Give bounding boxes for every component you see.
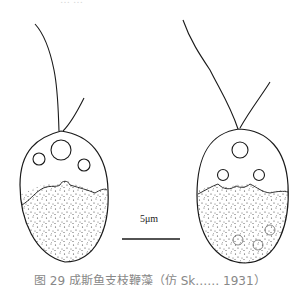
right-vacuole-left — [218, 170, 229, 181]
left-short-flagellum — [63, 98, 84, 131]
right-vacuole-right — [254, 170, 265, 181]
left-cell — [10, 24, 115, 270]
scale-bar-label: 5μm — [140, 213, 158, 224]
figure-caption: 图 29 成斯鱼支枝鞭藻（仿 Sk…… 1931） — [34, 271, 284, 285]
left-long-flagellum — [35, 24, 59, 131]
left-granular-region — [10, 179, 115, 270]
micrograph-illustration — [0, 0, 305, 285]
right-granular-region — [190, 182, 295, 270]
left-vacuole-large — [51, 140, 71, 160]
right-long-flagellum — [183, 20, 238, 129]
left-vacuole-right — [78, 159, 90, 171]
right-cell — [183, 20, 295, 270]
right-vacuole-top — [232, 142, 248, 158]
right-short-flagellum — [240, 82, 270, 128]
left-vacuole-left — [33, 153, 45, 165]
